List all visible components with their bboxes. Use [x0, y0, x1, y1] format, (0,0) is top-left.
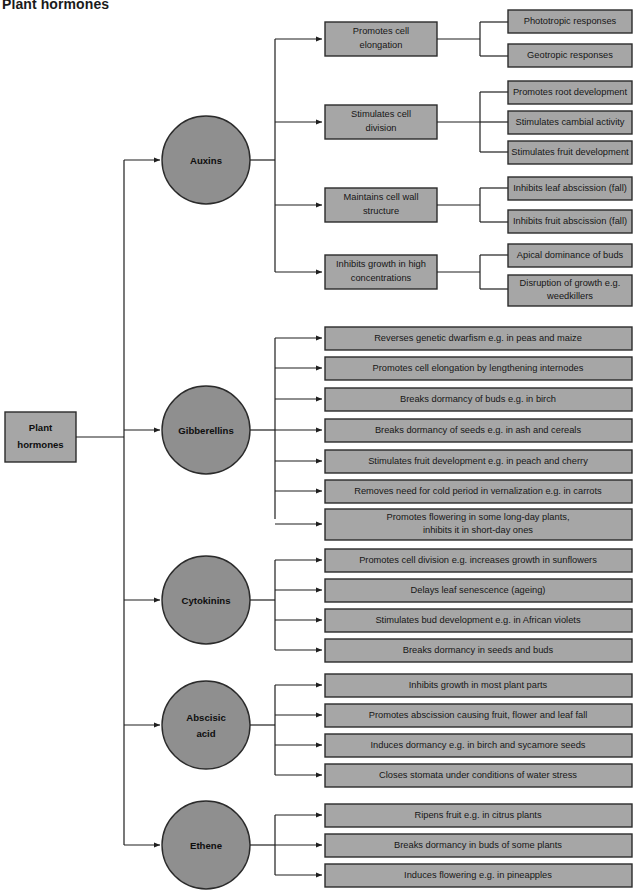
leaf-node-stimulates-fruit-development-peach[interactable]: Stimulates fruit development e.g. in pea…	[325, 450, 632, 473]
branch-label-abscisic-acid-line1: Abscisic	[186, 712, 226, 723]
mid-label-line2: elongation	[360, 40, 403, 50]
leaf-node-breaks-dormancy-seeds-buds[interactable]: Breaks dormancy in seeds and buds	[325, 639, 632, 662]
leaf-node-ripens-fruit-citrus[interactable]: Ripens fruit e.g. in citrus plants	[325, 804, 632, 827]
leaf-label: Stimulates bud development e.g. in Afric…	[375, 615, 581, 625]
leaf-label: Promotes cell elongation by lengthening …	[373, 363, 584, 373]
plant-hormones-diagram: Plant hormones Auxins Promotes cell elon…	[0, 0, 635, 890]
leaf-label: Phototropic responses	[524, 16, 617, 26]
leaf-node-breaks-dormancy-buds-some-plants[interactable]: Breaks dormancy in buds of some plants	[325, 834, 632, 857]
leaf-node-removes-need-for-cold-period[interactable]: Removes need for cold period in vernaliz…	[325, 480, 632, 503]
leaf-node-apical-dominance-of-buds[interactable]: Apical dominance of buds	[508, 244, 632, 267]
leaf-node-stimulates-bud-development[interactable]: Stimulates bud development e.g. in Afric…	[325, 609, 632, 632]
root-label-line1: Plant	[29, 422, 53, 433]
leaf-node-disruption-of-growth[interactable]: Disruption of growth e.g. weedkillers	[508, 275, 632, 306]
mid-node-stimulates-cell-division[interactable]: Stimulates cell division	[325, 105, 437, 139]
mid-node-promotes-cell-elongation[interactable]: Promotes cell elongation	[325, 22, 437, 56]
leaf-node-promotes-flowering-long-day[interactable]: Promotes flowering in some long-day plan…	[325, 509, 632, 540]
leaf-node-delays-leaf-senescence[interactable]: Delays leaf senescence (ageing)	[325, 579, 632, 602]
leaf-label: Induces flowering e.g. in pineapples	[404, 870, 552, 880]
leaf-node-promotes-abscission[interactable]: Promotes abscission causing fruit, flowe…	[325, 704, 632, 727]
leaf-label-line1: Disruption of growth e.g.	[520, 278, 621, 288]
branch-node-cytokinins[interactable]: Cytokinins	[162, 556, 250, 644]
leaf-label-line1: Promotes flowering in some long-day plan…	[387, 512, 570, 522]
leaf-node-promotes-root-development[interactable]: Promotes root development	[508, 81, 632, 104]
leaf-label: Breaks dormancy in buds of some plants	[394, 840, 562, 850]
leaf-label: Promotes cell division e.g. increases gr…	[359, 555, 597, 565]
branch-node-abscisic-acid[interactable]: Abscisic acid	[162, 681, 250, 769]
root-label-line2: hormones	[17, 439, 63, 450]
mid-label-line1: Stimulates cell	[351, 109, 411, 119]
leaf-label: Induces dormancy e.g. in birch and sycam…	[371, 740, 586, 750]
leaf-label: Reverses genetic dwarfism e.g. in peas a…	[374, 333, 582, 343]
leaf-label: Geotropic responses	[527, 50, 613, 60]
leaf-label: Ripens fruit e.g. in citrus plants	[414, 810, 541, 820]
leaf-node-closes-stomata-water-stress[interactable]: Closes stomata under conditions of water…	[325, 764, 632, 787]
leaf-label: Removes need for cold period in vernaliz…	[354, 486, 602, 496]
leaf-label: Promotes abscission causing fruit, flowe…	[369, 710, 588, 720]
branch-label-abscisic-acid-line2: acid	[196, 728, 215, 739]
leaf-node-inhibits-leaf-abscission[interactable]: Inhibits leaf abscission (fall)	[508, 177, 632, 200]
leaf-label: Promotes root development	[513, 87, 628, 97]
branch-label-gibberellins: Gibberellins	[178, 425, 233, 436]
leaf-node-promotes-cell-division-sunflowers[interactable]: Promotes cell division e.g. increases gr…	[325, 549, 632, 572]
leaf-label: Breaks dormancy of buds e.g. in birch	[400, 394, 556, 404]
leaf-label: Stimulates fruit development e.g. in pea…	[368, 456, 588, 466]
leaf-label: Inhibits leaf abscission (fall)	[513, 183, 627, 193]
leaf-node-inhibits-fruit-abscission[interactable]: Inhibits fruit abscission (fall)	[508, 210, 632, 233]
mid-node-maintains-cell-wall-structure[interactable]: Maintains cell wall structure	[325, 188, 437, 222]
mid-label-line1: Inhibits growth in high	[336, 259, 426, 269]
branch-label-ethene: Ethene	[190, 840, 222, 851]
branch-node-ethene[interactable]: Ethene	[162, 801, 250, 889]
mid-label-line2: structure	[363, 206, 399, 216]
leaf-label-line2: weedkillers	[546, 291, 593, 301]
mid-label-line1: Maintains cell wall	[344, 192, 419, 202]
mid-label-line1: Promotes cell	[353, 26, 409, 36]
leaf-label: Stimulates fruit development	[511, 147, 629, 157]
leaf-label: Inhibits growth in most plant parts	[409, 680, 548, 690]
leaf-node-induces-flowering-pineapples[interactable]: Induces flowering e.g. in pineapples	[325, 864, 632, 887]
leaf-node-geotropic-responses[interactable]: Geotropic responses	[508, 44, 632, 67]
branch-label-auxins: Auxins	[190, 155, 222, 166]
leaf-label: Breaks dormancy in seeds and buds	[403, 645, 554, 655]
leaf-node-breaks-dormancy-of-buds[interactable]: Breaks dormancy of buds e.g. in birch	[325, 388, 632, 411]
leaf-label: Breaks dormancy of seeds e.g. in ash and…	[375, 425, 582, 435]
leaf-node-induces-dormancy-birch-sycamore[interactable]: Induces dormancy e.g. in birch and sycam…	[325, 734, 632, 757]
mid-node-inhibits-growth-high-concentrations[interactable]: Inhibits growth in high concentrations	[325, 255, 437, 289]
leaf-label: Inhibits fruit abscission (fall)	[513, 216, 627, 226]
leaf-label: Closes stomata under conditions of water…	[379, 770, 577, 780]
root-node-plant-hormones[interactable]: Plant hormones	[5, 412, 76, 462]
branch-node-gibberellins[interactable]: Gibberellins	[162, 386, 250, 474]
leaf-node-promotes-cell-elongation-internodes[interactable]: Promotes cell elongation by lengthening …	[325, 357, 632, 380]
leaf-node-inhibits-growth-most-plant-parts[interactable]: Inhibits growth in most plant parts	[325, 674, 632, 697]
leaf-node-stimulates-fruit-development[interactable]: Stimulates fruit development	[508, 141, 632, 164]
leaf-node-phototropic-responses[interactable]: Phototropic responses	[508, 10, 632, 33]
branch-label-cytokinins: Cytokinins	[181, 595, 230, 606]
leaf-label-line2: inhibits it in short-day ones	[423, 525, 533, 535]
leaf-node-breaks-dormancy-of-seeds[interactable]: Breaks dormancy of seeds e.g. in ash and…	[325, 419, 632, 442]
mid-label-line2: concentrations	[351, 273, 412, 283]
branch-node-auxins[interactable]: Auxins	[162, 116, 250, 204]
leaf-node-reverses-genetic-dwarfism[interactable]: Reverses genetic dwarfism e.g. in peas a…	[325, 327, 632, 350]
mid-label-line2: division	[365, 123, 396, 133]
leaf-label: Stimulates cambial activity	[515, 117, 624, 127]
leaf-label: Delays leaf senescence (ageing)	[411, 585, 546, 595]
leaf-node-stimulates-cambial-activity[interactable]: Stimulates cambial activity	[508, 111, 632, 134]
leaf-label: Apical dominance of buds	[517, 250, 624, 260]
